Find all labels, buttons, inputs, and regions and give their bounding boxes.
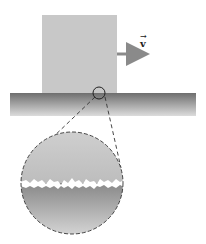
friction-diagram: [0, 0, 206, 244]
ground-surface: [10, 93, 196, 116]
velocity-label: → v: [140, 38, 146, 49]
sliding-block: [42, 15, 117, 93]
